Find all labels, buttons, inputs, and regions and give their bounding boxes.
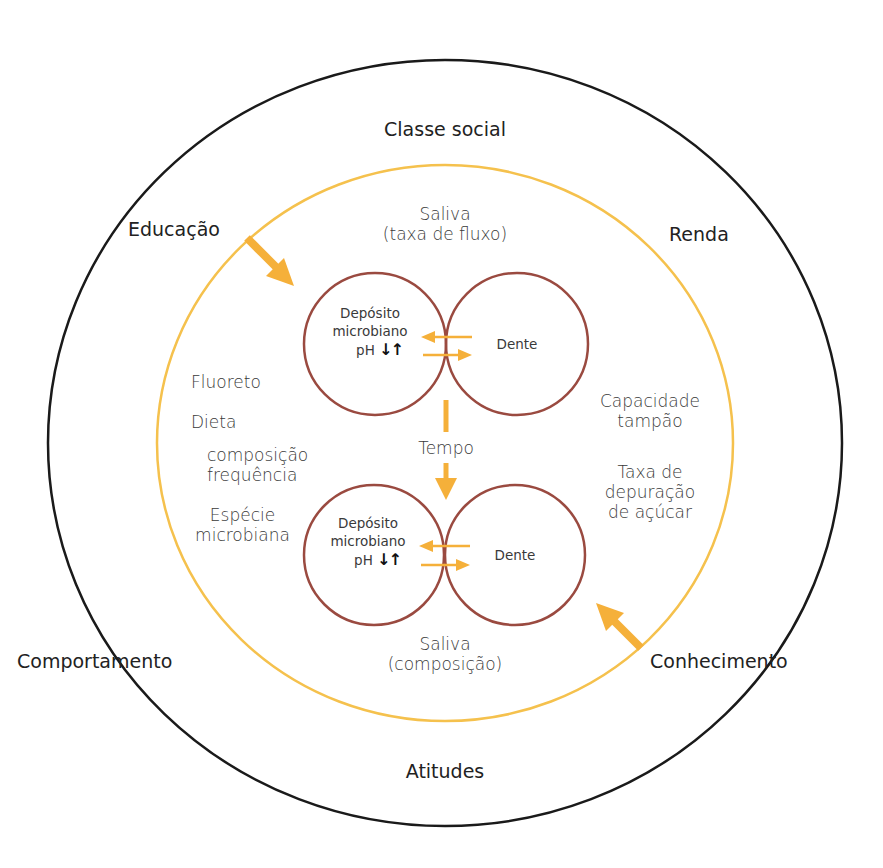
- label-microbial-deposit-top: Depósito microbiano pH ↓↑: [310, 306, 430, 360]
- deposit-top-line2: microbiano: [310, 324, 430, 340]
- deposit-bottom-line2: microbiano: [308, 534, 428, 550]
- label-attitudes: Atitudes: [385, 760, 505, 782]
- sugar-clearance-line1: Taxa de: [590, 462, 710, 482]
- buffer-capacity-line2: tampão: [585, 411, 715, 431]
- label-time: Tempo: [406, 438, 486, 458]
- label-diet: Dieta: [191, 412, 236, 432]
- label-behavior: Comportamento: [17, 650, 172, 672]
- label-tooth-top: Dente: [487, 337, 547, 353]
- ph-top: pH ↓↑: [310, 341, 430, 360]
- deposit-bottom-line1: Depósito: [308, 516, 428, 532]
- saliva-composition-line1: Saliva: [365, 634, 525, 654]
- ph-up-down-arrows-icon: ↓↑: [379, 340, 402, 359]
- label-diet-details: composição frequência: [207, 445, 308, 485]
- label-income: Renda: [669, 223, 729, 245]
- label-saliva-composition: Saliva (composição): [365, 634, 525, 674]
- saliva-composition-line2: (composição): [365, 654, 525, 674]
- buffer-capacity-line1: Capacidade: [585, 391, 715, 411]
- label-tooth-bottom: Dente: [485, 548, 545, 564]
- saliva-flow-line2: (taxa de fluxo): [365, 224, 525, 244]
- ph-label-top: pH: [356, 342, 375, 358]
- label-microbial-deposit-bottom: Depósito microbiano pH ↓↑: [308, 516, 428, 570]
- label-sugar-clearance: Taxa de depuração de açúcar: [590, 462, 710, 522]
- label-saliva-flow: Saliva (taxa de fluxo): [365, 204, 525, 244]
- microbial-species-line2: microbiana: [180, 525, 305, 545]
- label-buffer-capacity: Capacidade tampão: [585, 391, 715, 431]
- label-social-class: Classe social: [365, 118, 525, 140]
- diet-composition: composição: [207, 445, 308, 465]
- deposit-top-line1: Depósito: [310, 306, 430, 322]
- knowledge-arrow: [596, 603, 641, 648]
- saliva-flow-line1: Saliva: [365, 204, 525, 224]
- sugar-clearance-line2: depuração: [590, 482, 710, 502]
- ph-label-bottom: pH: [354, 552, 373, 568]
- label-education: Educação: [128, 218, 220, 240]
- microbial-species-line1: Espécie: [180, 505, 305, 525]
- diet-frequency: frequência: [207, 465, 308, 485]
- label-fluoride: Fluoreto: [191, 372, 261, 392]
- sugar-clearance-line3: de açúcar: [590, 502, 710, 522]
- label-knowledge: Conhecimento: [650, 650, 788, 672]
- ph-bottom: pH ↓↑: [308, 551, 428, 570]
- ph-up-down-arrows-icon: ↓↑: [377, 550, 400, 569]
- label-microbial-species: Espécie microbiana: [180, 505, 305, 545]
- education-arrow: [247, 238, 294, 286]
